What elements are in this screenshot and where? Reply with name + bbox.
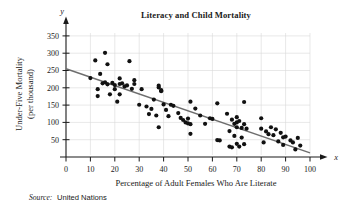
- x-tick-labels: 0 10 20 30 40 50 60 70 80 90 100: [64, 165, 316, 174]
- data-point: [159, 89, 163, 93]
- x-tick-label: 10: [86, 165, 94, 174]
- data-point: [291, 140, 295, 144]
- x-tick-label: 60: [208, 165, 216, 174]
- data-point: [274, 127, 278, 131]
- data-point: [193, 106, 197, 110]
- data-point: [130, 87, 134, 91]
- y-tick-label: 150: [47, 101, 59, 110]
- data-point: [276, 139, 280, 143]
- chart-title: Literacy and Child Mortality: [141, 10, 252, 20]
- data-point: [147, 112, 151, 116]
- x-axis-variable-label: x: [333, 153, 338, 162]
- data-point: [218, 138, 222, 142]
- data-point: [235, 125, 239, 129]
- data-point: [186, 116, 190, 120]
- data-point: [188, 132, 192, 136]
- y-tick-label: 100: [47, 118, 59, 127]
- x-tick-label: 40: [160, 165, 168, 174]
- data-point: [266, 132, 270, 136]
- data-point: [198, 113, 202, 117]
- data-point: [176, 111, 180, 115]
- data-point: [271, 133, 275, 137]
- data-point: [215, 101, 219, 105]
- data-point: [203, 122, 207, 126]
- data-point: [269, 125, 273, 129]
- data-point: [127, 59, 131, 63]
- data-point: [164, 108, 168, 112]
- data-point: [108, 92, 112, 96]
- data-point: [188, 122, 192, 126]
- data-point: [152, 97, 156, 101]
- y-axis-variable-label: y: [59, 7, 64, 16]
- x-axis-ticks: [66, 157, 310, 162]
- y-axis-title-line1: Under-Five Mortality: [14, 56, 24, 131]
- x-axis-title: Percentage of Adult Females Who Are Lite…: [115, 178, 276, 188]
- x-tick-label: 30: [135, 165, 143, 174]
- source-value: United Nations: [57, 193, 107, 202]
- data-point: [166, 114, 170, 118]
- data-point: [298, 143, 302, 147]
- y-axis-title-line2: (per thousand): [25, 69, 35, 119]
- y-tick-label: 350: [47, 32, 59, 41]
- data-point: [154, 113, 158, 117]
- data-point: [242, 100, 246, 104]
- y-tick-label: 200: [47, 84, 59, 93]
- y-tick-label: 250: [47, 66, 59, 75]
- data-point: [210, 117, 214, 121]
- data-point: [281, 143, 285, 147]
- x-tick-label: 90: [282, 165, 290, 174]
- data-point: [225, 112, 229, 116]
- data-point: [235, 115, 239, 119]
- data-point: [144, 104, 148, 108]
- data-point: [88, 76, 92, 80]
- data-point: [240, 126, 244, 130]
- source-label: Source:: [29, 193, 52, 202]
- data-point: [118, 76, 122, 80]
- data-point: [171, 104, 175, 108]
- data-point: [113, 87, 117, 91]
- data-point: [105, 82, 109, 86]
- x-tick-label: 20: [111, 165, 119, 174]
- data-point: [237, 145, 241, 149]
- data-point: [232, 134, 236, 138]
- data-points: [88, 51, 302, 152]
- data-point: [230, 145, 234, 149]
- data-point: [262, 140, 266, 144]
- scatterplot-figure: 50 100 150 200 250 300 350 0 10 20 30 40…: [0, 0, 353, 205]
- data-point: [188, 100, 192, 104]
- data-point: [125, 83, 129, 87]
- data-point: [96, 94, 100, 98]
- data-point: [162, 102, 166, 106]
- data-point: [140, 87, 144, 91]
- data-point: [149, 107, 153, 111]
- x-axis-arrowhead: [320, 154, 328, 160]
- data-point: [279, 131, 283, 135]
- x-tick-label: 0: [64, 165, 68, 174]
- data-point: [284, 134, 288, 138]
- axes: [60, 17, 328, 160]
- y-tick-label: 300: [47, 49, 59, 58]
- data-point: [227, 129, 231, 133]
- data-point: [242, 122, 246, 126]
- data-point: [93, 58, 97, 62]
- data-point: [137, 103, 141, 107]
- data-point: [115, 100, 119, 104]
- y-tick-label: 50: [51, 136, 59, 145]
- x-tick-label: 100: [304, 165, 316, 174]
- x-tick-label: 80: [257, 165, 265, 174]
- data-point: [118, 92, 122, 96]
- x-tick-label: 70: [233, 165, 241, 174]
- figure-container: 50 100 150 200 250 300 350 0 10 20 30 40…: [0, 0, 353, 205]
- data-point: [259, 116, 263, 120]
- data-point: [103, 51, 107, 55]
- data-point: [157, 84, 161, 88]
- data-point: [105, 62, 109, 66]
- data-point: [296, 136, 300, 140]
- data-point: [98, 72, 102, 76]
- data-point: [244, 127, 248, 131]
- x-tick-label: 50: [184, 165, 192, 174]
- data-point: [259, 127, 263, 131]
- vertical-gridlines: [90, 33, 310, 155]
- y-axis-arrowhead: [63, 17, 69, 25]
- data-point: [132, 82, 136, 86]
